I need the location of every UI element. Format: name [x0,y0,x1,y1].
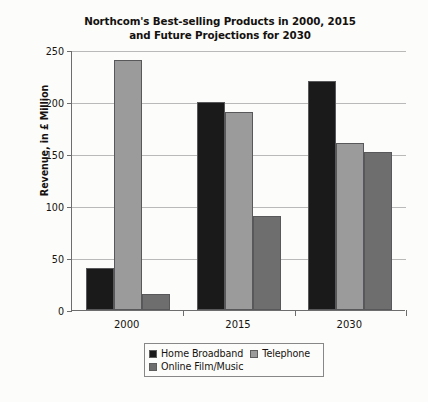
legend-item[interactable]: Online Film/Music [149,361,243,372]
legend-swatch-icon [149,363,157,371]
legend-label: Telephone [262,348,310,359]
bar [253,216,281,310]
y-axis-tick-label: 0 [18,306,64,317]
y-axis-tick [67,207,72,208]
bar [308,81,336,310]
legend-row-primary: Home BroadbandTelephone [149,347,318,360]
y-axis-tick-label: 150 [18,150,64,161]
y-axis-tick [67,311,72,312]
bar [142,294,170,310]
legend-row-secondary: Online Film/Music [149,360,318,373]
bar [197,102,225,310]
bar [86,268,114,310]
x-axis-tick [295,310,296,316]
bar-chart-figure: Northcom's Best-selling Products in 2000… [0,0,428,402]
legend-item[interactable]: Home Broadband [149,348,243,359]
x-axis-tick-label: 2015 [198,319,278,330]
y-axis-tick [67,103,72,104]
legend-swatch-icon [250,350,258,358]
y-axis-tick-labels: 050100150200250 [14,51,64,311]
x-axis-tick [406,310,407,316]
legend-swatch-icon [149,350,157,358]
y-axis-tick-label: 50 [18,254,64,265]
bar [364,152,392,310]
chart-title-line-2: and Future Projections for 2030 [50,28,390,42]
x-axis-tick-label: 2030 [309,319,389,330]
y-axis-tick-label: 250 [18,46,64,57]
bar [114,60,142,310]
bar [336,143,364,310]
legend-label: Online Film/Music [161,361,243,372]
chart-title-line-1: Northcom's Best-selling Products in 2000… [84,15,356,27]
bar [225,112,253,310]
plot-area [71,51,405,311]
y-axis-tick [67,259,72,260]
y-axis-tick [67,155,72,156]
gridline [72,51,406,52]
y-axis-tick-label: 200 [18,98,64,109]
legend-item[interactable]: Telephone [250,348,310,359]
legend-label: Home Broadband [161,348,243,359]
x-axis-tick [183,310,184,316]
chart-title: Northcom's Best-selling Products in 2000… [50,14,390,42]
x-axis-tick-labels: 200020152030 [71,319,405,337]
y-axis-tick [67,51,72,52]
x-axis-tick-label: 2000 [87,319,167,330]
y-axis-tick-label: 100 [18,202,64,213]
chart-legend: Home BroadbandTelephone Online Film/Musi… [144,343,324,377]
